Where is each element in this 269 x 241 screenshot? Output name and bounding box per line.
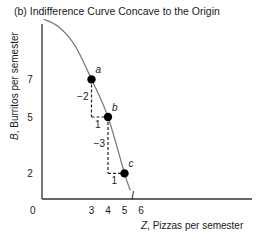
delta-x-label: 1: [95, 119, 101, 130]
y-tick-label: 2: [27, 168, 33, 179]
point-label-c: c: [129, 158, 134, 169]
delta-y-label: −2: [77, 91, 89, 102]
point-a: [87, 75, 95, 83]
x-tick-label: 4: [105, 205, 111, 216]
point-c: [120, 169, 128, 177]
y-tick-label: 7: [27, 74, 33, 85]
point-b: [104, 113, 112, 121]
delta-x-label: 1: [111, 175, 117, 186]
y-axis-label: B, Burritos per semester: [9, 32, 20, 140]
x-tick-label: 5: [122, 205, 128, 216]
x-axis-label: Z, Pizzas per semester: [140, 220, 244, 231]
x-tick-label: 6: [138, 205, 144, 216]
point-label-a: a: [96, 64, 102, 75]
point-label-b: b: [112, 102, 118, 113]
indifference-curve-chart: 03456752Z, Pizzas per semesterB, Burrito…: [0, 0, 269, 241]
origin-label: 0: [30, 205, 36, 216]
delta-y-label: −3: [94, 138, 106, 149]
x-tick-label: 3: [89, 205, 95, 216]
curve-label: I: [131, 190, 134, 201]
y-tick-label: 5: [27, 112, 33, 123]
